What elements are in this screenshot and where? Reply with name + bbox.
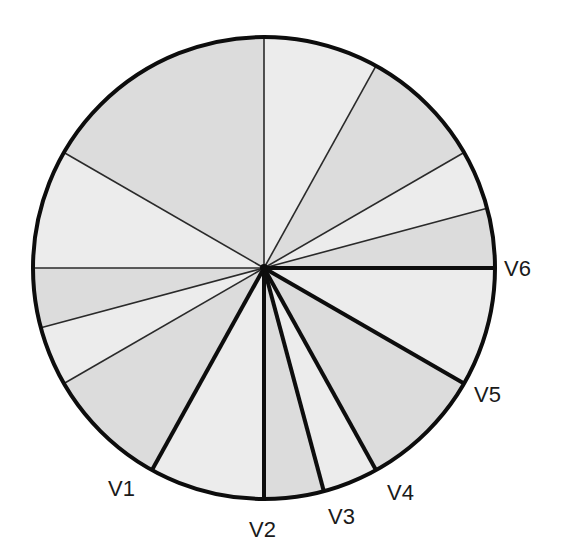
center-hub (260, 264, 268, 272)
label-v3: V3 (328, 506, 355, 528)
label-v4: V4 (387, 482, 414, 504)
label-v6: V6 (504, 258, 531, 280)
label-v2: V2 (249, 519, 276, 541)
label-v1: V1 (108, 478, 135, 500)
circle-diagram (0, 0, 566, 554)
label-v5: V5 (474, 384, 501, 406)
sector-diagram: V1 V2 V3 V4 V5 V6 (0, 0, 566, 554)
